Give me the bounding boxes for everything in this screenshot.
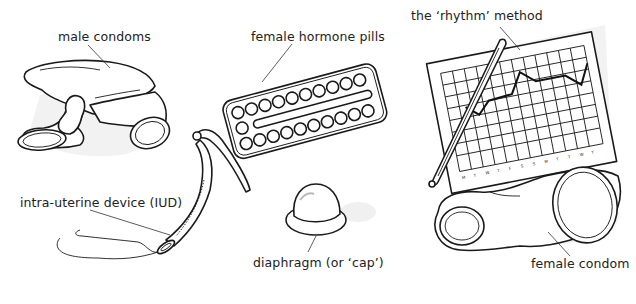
label-diaphragm: diaphragm (or ‘cap’) (253, 255, 384, 270)
contraception-illustration: MTW TFS SMT TWT (0, 0, 636, 304)
label-rhythm-method: the ‘rhythm’ method (411, 8, 543, 23)
pill-pack-drawing (221, 44, 389, 161)
label-iud: intra-uterine device (IUD) (20, 195, 182, 210)
label-female-condom: female condom (531, 256, 630, 271)
male-condoms-drawing (17, 45, 174, 156)
label-female-hormone-pills: female hormone pills (251, 29, 385, 44)
diaphragm-drawing (286, 184, 376, 252)
label-male-condoms: male condoms (58, 29, 151, 44)
